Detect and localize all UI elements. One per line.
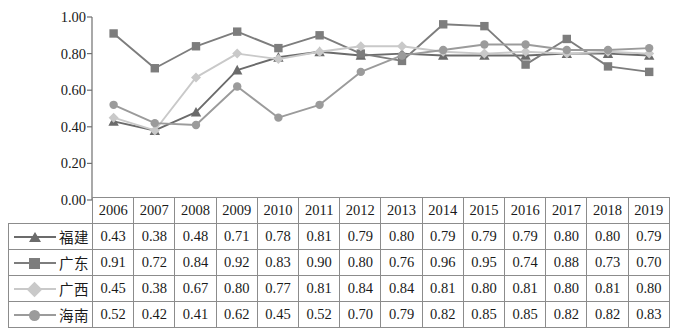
y-tick-label-0.80: 0.80 (61, 46, 86, 62)
cell-海南-2012: 0.70 (340, 302, 381, 328)
cell-广东-2011: 0.90 (299, 250, 340, 276)
cell-广西-2012: 0.84 (340, 276, 381, 302)
cell-广西-2017: 0.80 (546, 276, 587, 302)
data-point-marker (192, 42, 200, 50)
data-point-marker (357, 68, 365, 76)
series-label: 海南 (59, 304, 89, 325)
y-tick-label-0.60: 0.60 (61, 82, 86, 98)
cell-广东-2016: 0.74 (505, 250, 546, 276)
series-label: 福建 (59, 226, 89, 247)
data-point-marker (521, 60, 529, 68)
cell-广西-2006: 0.45 (93, 276, 134, 302)
series-广东 (109, 20, 653, 76)
cell-广东-2008: 0.84 (175, 250, 216, 276)
chart-plot-area: 1.00 0.80 0.60 0.40 0.20 0.00 (0, 0, 673, 205)
table-row: 广东0.910.720.840.920.830.900.800.760.960.… (9, 250, 670, 276)
data-point-marker (109, 101, 117, 109)
cell-广东-2013: 0.76 (381, 250, 422, 276)
table-corner-cell (9, 198, 93, 224)
data-point-marker (604, 62, 612, 70)
cell-福建-2015: 0.79 (463, 224, 504, 250)
data-point-marker (151, 119, 159, 127)
cell-广东-2006: 0.91 (93, 250, 134, 276)
data-point-marker (480, 22, 488, 30)
year-header-2014: 2014 (422, 198, 463, 224)
cell-广西-2016: 0.81 (505, 276, 546, 302)
series-福建 (108, 47, 654, 135)
data-series-layer (108, 20, 654, 135)
cell-广西-2013: 0.84 (381, 276, 422, 302)
year-header-2011: 2011 (299, 198, 340, 224)
cell-广西-2011: 0.81 (299, 276, 340, 302)
cell-广西-2010: 0.77 (257, 276, 298, 302)
year-header-2008: 2008 (175, 198, 216, 224)
cell-广西-2008: 0.67 (175, 276, 216, 302)
cell-广东-2017: 0.88 (546, 250, 587, 276)
cell-海南-2016: 0.85 (505, 302, 546, 328)
year-header-2006: 2006 (93, 198, 134, 224)
cell-福建-2009: 0.71 (216, 224, 257, 250)
data-point-marker (645, 44, 653, 52)
table-row: 福建0.430.380.480.710.780.810.790.800.790.… (9, 224, 670, 250)
legend-diamond-icon (14, 282, 56, 296)
year-header-2013: 2013 (381, 198, 422, 224)
data-point-marker (274, 44, 282, 52)
year-header-2017: 2017 (546, 198, 587, 224)
cell-广西-2018: 0.81 (587, 276, 628, 302)
data-point-marker (439, 46, 447, 54)
cell-海南-2018: 0.82 (587, 302, 628, 328)
table-row: 海南0.520.420.410.620.450.520.700.790.820.… (9, 302, 670, 328)
legend-cell-海南: 海南 (9, 302, 93, 328)
data-point-marker (151, 64, 159, 72)
cell-福建-2016: 0.79 (505, 224, 546, 250)
cell-福建-2019: 0.79 (628, 224, 669, 250)
data-point-marker (232, 49, 242, 59)
cell-广西-2015: 0.80 (463, 276, 504, 302)
legend-cell-福建: 福建 (9, 224, 93, 250)
cell-广西-2014: 0.81 (422, 276, 463, 302)
year-header-2009: 2009 (216, 198, 257, 224)
cell-海南-2006: 0.52 (93, 302, 134, 328)
legend-cell-广西: 广西 (9, 276, 93, 302)
y-axis-tick-labels: 1.00 0.80 0.60 0.40 0.20 0.00 (61, 9, 86, 205)
legend-cell-广东: 广东 (9, 250, 93, 276)
year-header-2010: 2010 (257, 198, 298, 224)
year-header-2015: 2015 (463, 198, 504, 224)
data-point-marker (563, 46, 571, 54)
cell-广西-2019: 0.80 (628, 276, 669, 302)
data-point-marker (645, 68, 653, 76)
cell-福建-2017: 0.80 (546, 224, 587, 250)
y-tick-label-1.00: 1.00 (61, 9, 86, 25)
data-table: 2006200720082009201020112012201320142015… (8, 197, 670, 328)
cell-福建-2008: 0.48 (175, 224, 216, 250)
data-point-marker (109, 29, 117, 37)
year-header-2007: 2007 (134, 198, 175, 224)
series-line (114, 46, 650, 130)
year-header-2016: 2016 (505, 198, 546, 224)
data-point-marker (233, 82, 241, 90)
data-point-marker (398, 51, 406, 59)
data-point-marker (192, 121, 200, 129)
cell-广东-2009: 0.92 (216, 250, 257, 276)
year-header-2019: 2019 (628, 198, 669, 224)
data-point-marker (315, 31, 323, 39)
cell-海南-2014: 0.82 (422, 302, 463, 328)
cell-广西-2007: 0.38 (134, 276, 175, 302)
cell-福建-2007: 0.38 (134, 224, 175, 250)
cell-广东-2014: 0.96 (422, 250, 463, 276)
cell-广东-2007: 0.72 (134, 250, 175, 276)
legend-triangle-icon (14, 230, 56, 244)
cell-海南-2008: 0.41 (175, 302, 216, 328)
data-point-marker (274, 113, 282, 121)
cell-海南-2013: 0.79 (381, 302, 422, 328)
cell-广东-2018: 0.73 (587, 250, 628, 276)
data-point-marker (521, 40, 529, 48)
cell-海南-2010: 0.45 (257, 302, 298, 328)
cell-广东-2019: 0.70 (628, 250, 669, 276)
data-point-marker (397, 41, 407, 51)
table-row: 广西0.450.380.670.800.770.810.840.840.810.… (9, 276, 670, 302)
cell-福建-2011: 0.81 (299, 224, 340, 250)
data-point-marker (233, 27, 241, 35)
cell-广东-2015: 0.95 (463, 250, 504, 276)
